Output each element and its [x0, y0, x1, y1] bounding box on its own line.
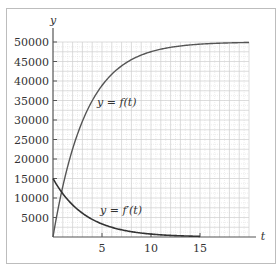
x-tick-label: 5 — [99, 242, 106, 255]
y-tick-label: 15000 — [14, 173, 49, 186]
y-tick-label: 5000 — [21, 212, 49, 225]
major-grid — [53, 42, 249, 237]
x-tick-label: 15 — [193, 242, 207, 255]
y-tick-label: 30000 — [14, 114, 49, 127]
y-tick-label: 35000 — [14, 95, 49, 108]
chart-svg: 5000100001500020000250003000035000400004… — [0, 0, 279, 271]
ticks: 5000100001500020000250003000035000400004… — [14, 36, 207, 255]
fprime-curve-label: y = f′(t) — [99, 204, 142, 217]
y-tick-label: 20000 — [14, 153, 49, 166]
y-tick-label: 25000 — [14, 134, 49, 147]
y-tick-label: 10000 — [14, 192, 49, 205]
y-tick-label: 45000 — [14, 56, 49, 69]
f-curve-label: y = f(t) — [96, 96, 137, 109]
x-tick-label: 10 — [144, 242, 158, 255]
y-axis-label: y — [49, 14, 57, 27]
y-tick-label: 40000 — [14, 75, 49, 88]
y-tick-label: 50000 — [14, 36, 49, 49]
x-axis-label: t — [261, 230, 266, 243]
axes — [53, 28, 256, 237]
